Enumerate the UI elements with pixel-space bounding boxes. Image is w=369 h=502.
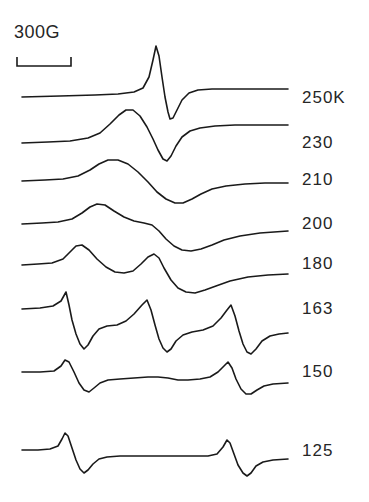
temperature-label: 163 xyxy=(302,299,333,319)
spectrum-trace xyxy=(22,46,288,119)
epr-spectra-figure: 300G 250K230210200180163150125 xyxy=(0,0,369,502)
spectrum-trace xyxy=(22,110,288,161)
scale-bar-icon xyxy=(17,57,71,66)
scale-bar-caption: 300G xyxy=(14,22,60,43)
temperature-label: 200 xyxy=(302,214,333,234)
spectrum-trace xyxy=(22,160,288,203)
temperature-label: 230 xyxy=(302,133,333,153)
scale-bar-group xyxy=(17,57,71,66)
temperature-label: 180 xyxy=(302,254,333,274)
spectrum-trace xyxy=(22,433,288,476)
spectra-plot-area xyxy=(0,0,369,502)
trace-group xyxy=(22,46,288,476)
spectrum-trace xyxy=(22,204,288,251)
temperature-label: 250K xyxy=(302,88,346,108)
temperature-label: 210 xyxy=(302,170,333,190)
temperature-label: 125 xyxy=(302,441,333,461)
spectrum-trace xyxy=(22,360,288,394)
spectrum-trace xyxy=(22,292,288,354)
temperature-label: 150 xyxy=(302,362,333,382)
spectrum-trace xyxy=(22,245,288,293)
